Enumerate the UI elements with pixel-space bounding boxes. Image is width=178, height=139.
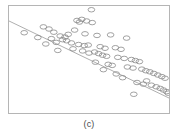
data-point [103,54,110,58]
data-point [123,36,130,40]
data-point [71,28,78,32]
data-point [42,42,49,46]
data-point [100,67,107,71]
data-point [138,67,145,71]
scatter-plot-canvas [9,6,169,113]
data-point [114,55,121,59]
data-point [95,51,102,55]
data-point [142,68,149,72]
data-point [121,56,128,60]
data-point [94,33,101,37]
figure-caption: (c) [0,118,178,130]
data-point [46,27,53,31]
data-point [150,71,157,75]
data-point [79,49,86,53]
data-point [105,62,112,66]
data-point [99,53,106,57]
data-point [89,20,96,24]
data-point [68,41,75,45]
data-point [85,43,92,47]
data-point [118,47,125,51]
data-point [70,47,77,51]
data-point [109,63,116,67]
data-point [82,32,89,36]
scatter-points [21,7,169,96]
scatter-plot-frame [8,5,170,114]
data-point [154,73,161,77]
data-point [48,36,55,40]
data-point [88,7,95,11]
data-point [34,35,41,39]
data-point [132,58,139,62]
data-point [136,59,143,63]
data-point [107,33,114,37]
data-point [54,48,61,52]
data-point [59,37,66,41]
data-point [128,57,135,61]
data-point [146,70,153,74]
data-point [143,79,150,83]
data-point [130,92,137,96]
figure-panel: (c) [0,0,178,139]
data-point [21,31,28,35]
